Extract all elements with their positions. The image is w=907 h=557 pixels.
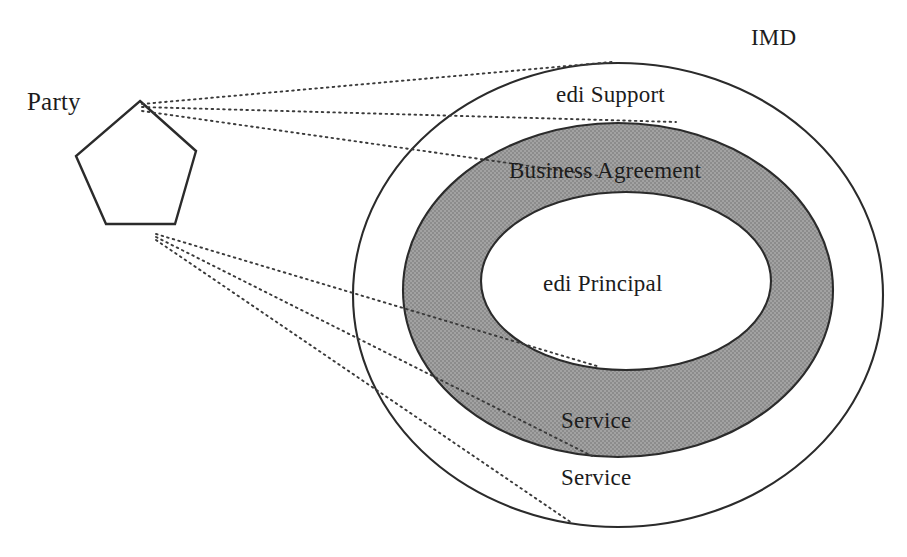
label-service-outer: Service xyxy=(561,466,631,489)
diagram-canvas: Party IMD edi Support Business Agreement… xyxy=(0,0,907,557)
label-party: Party xyxy=(27,89,81,114)
pentagon-party-shape xyxy=(76,101,196,224)
diagram-vector-layer xyxy=(0,0,907,557)
label-business-agreement: Business Agreement xyxy=(509,159,701,182)
label-imd: IMD xyxy=(751,26,796,49)
label-edi-principal: edi Principal xyxy=(543,272,663,295)
label-edi-support: edi Support xyxy=(556,83,665,106)
label-service-inner: Service xyxy=(561,409,631,432)
